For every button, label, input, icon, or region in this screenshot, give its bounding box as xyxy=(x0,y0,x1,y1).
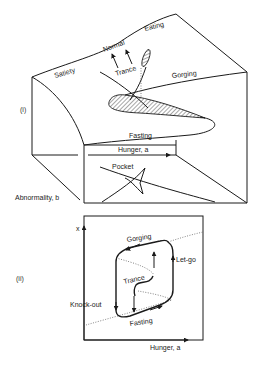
cusp-hatched-region xyxy=(109,95,205,118)
panel-i-label: (i) xyxy=(20,106,26,114)
cusp-projection-line xyxy=(100,167,215,202)
surface-left-fold xyxy=(32,77,84,145)
label-gorging: Gorging xyxy=(171,69,197,80)
label-eating: Eating xyxy=(144,20,165,33)
trance-lens-upper xyxy=(140,49,152,68)
normal-arrow-1 xyxy=(112,54,118,68)
catastrophe-diagram: (i) Satiety Eating Normal Trance Gorging… xyxy=(0,0,261,367)
label-fasting-ii: Fasting xyxy=(129,317,153,328)
gorging-arrow xyxy=(126,244,140,250)
fold-line-upper xyxy=(168,232,203,242)
panel-i xyxy=(32,14,247,203)
abnormality-axis-label: Abnormality, b xyxy=(15,194,59,202)
hunger-axis-label-i: Hunger, a xyxy=(118,146,148,154)
normal-arrow-2 xyxy=(126,50,132,64)
fold-line-mid xyxy=(116,258,154,275)
y-axis-label-ii: x xyxy=(76,225,80,232)
x-axis-label-ii: Hunger, a xyxy=(150,344,180,352)
fold-line-mid2 xyxy=(138,291,172,300)
panel-ii-label: (ii) xyxy=(16,275,24,283)
label-trance-ii: Trance xyxy=(123,274,146,285)
label-pocket: Pocket xyxy=(112,163,133,170)
label-fasting: Fasting xyxy=(129,132,152,140)
surface-top-edge xyxy=(32,14,247,77)
surface-fold-lip xyxy=(84,117,215,145)
pocket-cusp xyxy=(102,168,145,202)
label-normal: Normal xyxy=(102,38,126,52)
label-gorging-ii: Gorging xyxy=(126,233,152,244)
box-right-diagonal xyxy=(176,155,247,203)
label-knock-out: Knock-out xyxy=(70,301,102,308)
label-let-go: Let-go xyxy=(176,256,196,264)
